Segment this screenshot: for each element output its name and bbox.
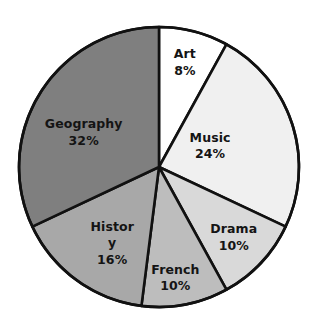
pie-chart: Art8%Music24%Drama10%French10%History16%… — [0, 0, 316, 327]
pie-chart-canvas — [0, 0, 316, 327]
pie-slices-group — [19, 27, 299, 307]
